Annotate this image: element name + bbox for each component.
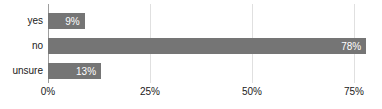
plot-area: yes9%no78%unsure13%0%25%50%75% — [0, 0, 382, 109]
category-label: no — [32, 38, 43, 54]
category-label: yes — [27, 13, 43, 29]
bar-value-label: 9% — [65, 16, 84, 27]
bar-value-label: 13% — [76, 66, 101, 77]
bar-row: yes9% — [0, 13, 382, 29]
bar-row: unsure13% — [0, 63, 382, 79]
bar: 78% — [48, 38, 366, 54]
bar-chart: yes9%no78%unsure13%0%25%50%75% — [0, 0, 382, 109]
x-tick-label: 0% — [41, 86, 55, 97]
bar-row: no78% — [0, 38, 382, 54]
bar: 13% — [48, 63, 101, 79]
x-tick-label: 25% — [140, 86, 160, 97]
category-label: unsure — [12, 63, 43, 79]
x-tick-label: 75% — [344, 86, 364, 97]
bar-value-label: 78% — [341, 41, 366, 52]
x-tick-label: 50% — [242, 86, 262, 97]
bar: 9% — [48, 13, 85, 29]
